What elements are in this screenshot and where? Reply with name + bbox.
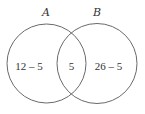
- region-b-only: 26 – 5: [95, 60, 123, 72]
- venn-diagram: A B 12 – 5 5 26 – 5: [0, 0, 145, 114]
- region-a-only: 12 – 5: [15, 60, 43, 72]
- set-b-label: B: [92, 6, 101, 19]
- region-intersection: 5: [69, 60, 75, 72]
- set-a-label: A: [41, 6, 50, 19]
